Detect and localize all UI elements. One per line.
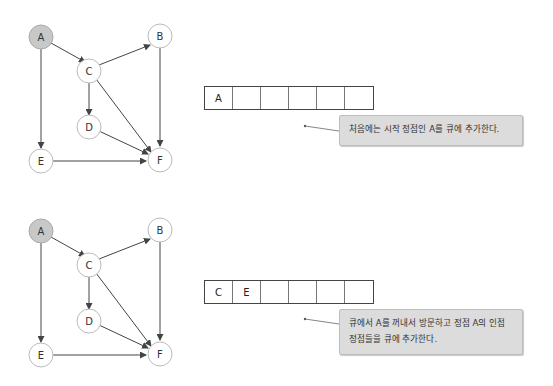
caption-line-1: 큐에서 A를 꺼내서 방문하고 정점 A의 인접 xyxy=(349,315,513,331)
bfs-step-2: A B C D E F C E 큐 xyxy=(0,193,553,386)
caption-text: 처음에는 시작 정점인 A를 큐에 추가한다. xyxy=(349,124,499,134)
caption-line-2: 정점들을 큐에 추가한다. xyxy=(349,331,513,347)
callout-pointer-step-1 xyxy=(0,0,553,193)
caption-step-1: 처음에는 시작 정점인 A를 큐에 추가한다. xyxy=(339,115,523,146)
bfs-step-1: A B C D E F A 처음 xyxy=(0,0,553,193)
callout-pointer-step-2 xyxy=(0,193,553,386)
caption-step-2: 큐에서 A를 꺼내서 방문하고 정점 A의 인접 정점들을 큐에 추가한다. xyxy=(339,309,523,355)
